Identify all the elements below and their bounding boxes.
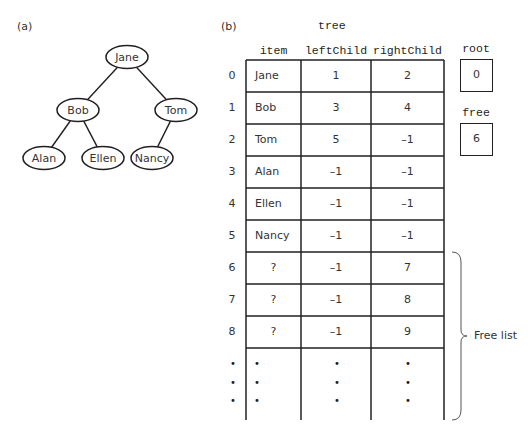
row-index: 4	[224, 188, 240, 220]
free-list-brace	[452, 252, 467, 420]
cell-item: Bob	[255, 92, 301, 124]
row-index: 3	[224, 156, 240, 188]
cell-leftchild: –1	[301, 284, 371, 316]
cell-leftchild: –1	[301, 220, 371, 252]
ellipsis-dot: •	[405, 358, 411, 369]
row-index: 2	[224, 124, 240, 156]
cell-item: ?	[246, 316, 301, 348]
cell-leftchild: 3	[301, 92, 371, 124]
root-label: root	[456, 42, 496, 55]
cell-item: Ellen	[255, 188, 301, 220]
cell-rightchild: 2	[371, 60, 444, 92]
root-value: 0	[473, 68, 480, 81]
ellipsis-dot: •	[230, 377, 236, 388]
ellipsis-dot: •	[334, 358, 340, 369]
ellipsis-dot: •	[230, 395, 236, 406]
cell-rightchild: –1	[371, 220, 444, 252]
cell-leftchild: –1	[301, 188, 371, 220]
cell-rightchild: 8	[371, 284, 444, 316]
cell-rightchild: 9	[371, 316, 444, 348]
root-box: 0	[460, 59, 493, 92]
cell-item: ?	[246, 252, 301, 284]
ellipsis-dot: •	[334, 377, 340, 388]
ellipsis-dot: •	[254, 358, 260, 369]
cell-rightchild: 4	[371, 92, 444, 124]
ellipsis-dot: •	[254, 395, 260, 406]
row-index: 1	[224, 92, 240, 124]
free-list-label: Free list	[474, 329, 517, 342]
cell-leftchild: 1	[301, 60, 371, 92]
ellipsis-dot: •	[254, 377, 260, 388]
row-index: 7	[224, 284, 240, 316]
cell-leftchild: –1	[301, 156, 371, 188]
cell-leftchild: –1	[301, 252, 371, 284]
ellipsis-dot: •	[334, 395, 340, 406]
cell-leftchild: –1	[301, 316, 371, 348]
ellipsis-dot: •	[405, 395, 411, 406]
cell-rightchild: –1	[371, 156, 444, 188]
cell-rightchild: –1	[371, 188, 444, 220]
ellipsis-dot: •	[405, 377, 411, 388]
cell-item: Jane	[255, 60, 301, 92]
cell-item: ?	[246, 284, 301, 316]
row-index: 5	[224, 220, 240, 252]
free-value: 6	[473, 132, 480, 145]
cell-item: Nancy	[255, 220, 301, 252]
cell-rightchild: 7	[371, 252, 444, 284]
cell-item: Tom	[255, 124, 301, 156]
row-index: 0	[224, 60, 240, 92]
ellipsis-dot: •	[230, 358, 236, 369]
row-index: 8	[224, 316, 240, 348]
cell-rightchild: –1	[371, 124, 444, 156]
free-box: 6	[460, 123, 493, 156]
cell-item: Alan	[255, 156, 301, 188]
row-index: 6	[224, 252, 240, 284]
free-label: free	[456, 106, 496, 119]
cell-leftchild: 5	[301, 124, 371, 156]
